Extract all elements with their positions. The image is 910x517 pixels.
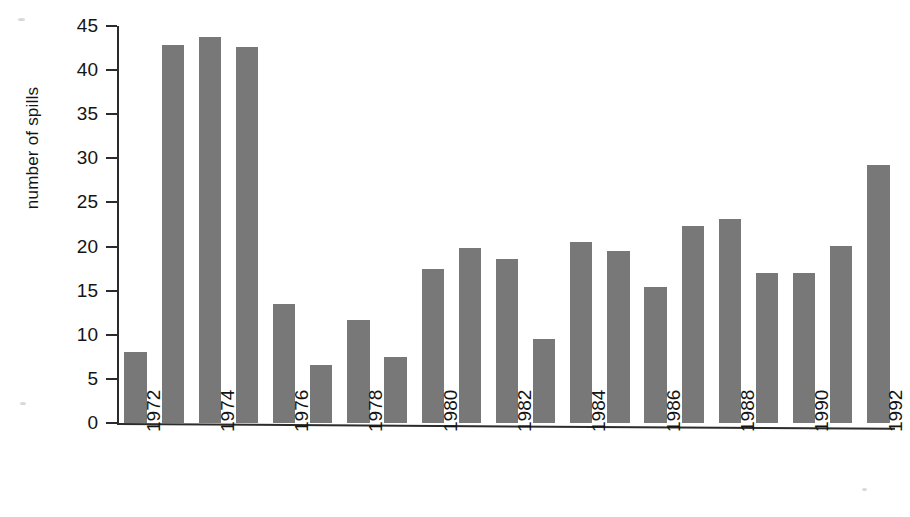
scan-speck — [862, 488, 867, 491]
bar — [199, 37, 221, 423]
y-axis-tick-label: 10 — [48, 325, 98, 344]
x-axis-tick-label: 1980 — [441, 390, 460, 432]
x-axis-tick-label: 1978 — [366, 390, 385, 432]
y-axis-tick-label: 45 — [48, 16, 98, 35]
y-axis-tick-label: 40 — [48, 60, 98, 79]
bar — [384, 357, 406, 423]
x-axis-tick-label: 1986 — [664, 390, 683, 432]
bar-chart: number of spills 051015202530354045 1972… — [0, 0, 910, 517]
bar — [830, 246, 852, 423]
y-axis-tick — [106, 246, 117, 248]
bar — [310, 365, 332, 423]
bar — [607, 251, 629, 423]
y-axis-tick — [106, 201, 117, 203]
y-axis-tick — [106, 113, 117, 115]
bar — [756, 273, 778, 423]
y-axis-tick-label: 0 — [48, 413, 98, 432]
y-axis-tick — [106, 334, 117, 336]
y-axis-title: number of spills — [23, 53, 43, 243]
y-axis-tick — [106, 290, 117, 292]
y-axis-tick — [106, 422, 117, 424]
x-axis-tick-label: 1972 — [144, 390, 163, 432]
x-axis-tick-label: 1982 — [515, 390, 534, 432]
x-axis-tick-label: 1992 — [886, 390, 905, 432]
y-axis-tick-label: 15 — [48, 281, 98, 300]
bar — [533, 339, 555, 423]
y-axis-tick — [106, 25, 117, 27]
bar — [459, 248, 481, 423]
scan-speck — [20, 402, 26, 405]
y-axis-tick-label: 35 — [48, 104, 98, 123]
plot-area — [117, 26, 897, 423]
y-axis-tick — [106, 69, 117, 71]
bar — [867, 165, 889, 423]
x-axis-tick-label: 1988 — [738, 390, 757, 432]
y-axis-tick-label: 5 — [48, 369, 98, 388]
bar — [236, 47, 258, 423]
x-axis-tick-label: 1984 — [589, 390, 608, 432]
y-axis-tick-label: 25 — [48, 192, 98, 211]
y-axis-tick-label: 20 — [48, 237, 98, 256]
y-axis-tick-label: 30 — [48, 148, 98, 167]
x-axis-tick-label: 1974 — [218, 390, 237, 432]
y-axis-tick — [106, 157, 117, 159]
x-axis-tick-label: 1990 — [812, 390, 831, 432]
scan-speck — [18, 18, 25, 21]
x-axis-tick-label: 1976 — [292, 390, 311, 432]
bar — [682, 226, 704, 423]
bar — [162, 45, 184, 423]
y-axis-tick — [106, 378, 117, 380]
